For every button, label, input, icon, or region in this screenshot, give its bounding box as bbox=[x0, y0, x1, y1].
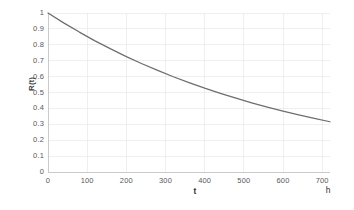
reliability-decay-chart: 00.10.20.30.40.50.60.70.80.91 0100200300… bbox=[0, 0, 354, 210]
y-axis-title: R(t) bbox=[24, 54, 40, 114]
x-tick-label: 600 bbox=[263, 176, 303, 185]
x-tick-label: 500 bbox=[224, 176, 264, 185]
x-axis-title: t bbox=[175, 186, 215, 196]
x-axis-tick-labels: 0100200300400500600700 bbox=[0, 0, 354, 210]
x-tick-label: 100 bbox=[67, 176, 107, 185]
x-tick-label: 200 bbox=[106, 176, 146, 185]
x-tick-label: 400 bbox=[185, 176, 225, 185]
x-axis-unit-label: h bbox=[312, 185, 344, 195]
x-tick-label: 0 bbox=[28, 176, 68, 185]
x-tick-label: 300 bbox=[146, 176, 186, 185]
x-tick-label: 700 bbox=[302, 176, 342, 185]
